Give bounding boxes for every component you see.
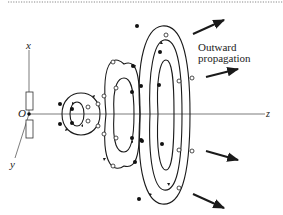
origin-label: O (18, 108, 26, 119)
x-axis-label: x (26, 40, 31, 51)
z-axis-label: z (266, 109, 270, 119)
propagation-line-2: propagation (198, 53, 251, 64)
propagation-arrow-mid-lower (206, 151, 238, 160)
dipole-lower-arm (26, 120, 33, 138)
y-axis-label: y (10, 159, 15, 170)
dipole-upper-arm (26, 92, 33, 110)
propagation-annotation: Outward propagation (198, 42, 251, 64)
origin-point (27, 112, 31, 116)
propagation-arrow-lower (193, 194, 224, 208)
dipole-radiation-diagram (0, 0, 283, 215)
propagation-arrow-upper (193, 20, 224, 34)
propagation-arrow-mid-upper (206, 69, 238, 77)
field-loop-group-3 (139, 26, 190, 204)
